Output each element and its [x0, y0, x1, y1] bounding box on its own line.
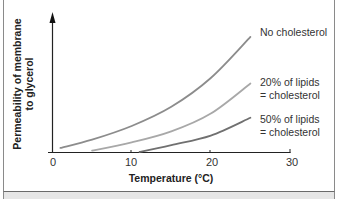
y-axis-label-line2: to glycerol: [23, 18, 35, 149]
y-axis-label-line1: Permeability of membrane: [11, 18, 23, 149]
legend-20-percent: 20% of lipids = cholesterol: [260, 76, 320, 101]
x-tick-label-0: 0: [50, 156, 56, 168]
legend-label-line1: 20% of lipids: [260, 76, 320, 89]
y-axis-label: Permeability of membrane to glycerol: [3, 15, 43, 152]
curves: [60, 37, 250, 152]
series-line-2: [140, 118, 251, 152]
x-tick-label-20: 20: [206, 156, 218, 168]
y-axis-arrow-icon: [50, 12, 56, 23]
legend-label-line2: = cholesterol: [260, 126, 320, 139]
legend-label-line1: 50% of lipids: [260, 113, 320, 126]
x-axis-label: Temperature (°C): [129, 172, 214, 184]
series-line-1: [92, 84, 250, 151]
legend-no-cholesterol: No cholesterol: [260, 26, 327, 39]
legend-50-percent: 50% of lipids = cholesterol: [260, 113, 320, 138]
x-tick-label-10: 10: [125, 156, 137, 168]
legend-label-line2: = cholesterol: [260, 89, 320, 102]
legend-label: No cholesterol: [260, 26, 327, 39]
x-tick-label-30: 30: [286, 156, 298, 168]
